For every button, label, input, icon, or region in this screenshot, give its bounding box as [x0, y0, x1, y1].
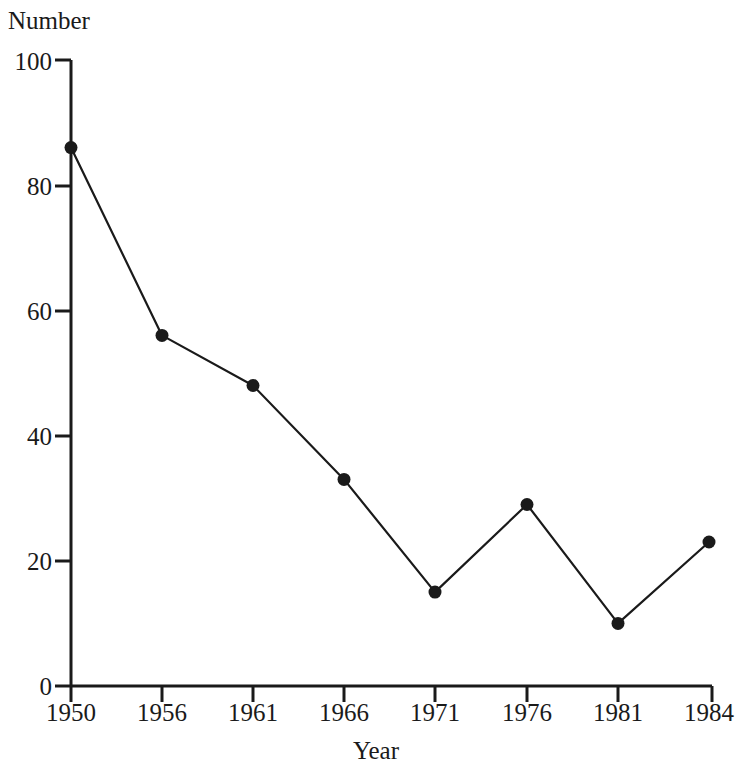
data-point-1966 [338, 473, 351, 486]
data-point-1971 [429, 586, 442, 599]
x-axis-ticks [71, 686, 712, 702]
data-point-1956 [156, 329, 169, 342]
line-chart-figure: Number Year 0 20 40 60 80 100 1950 1956 … [0, 0, 752, 773]
plot-area [0, 0, 752, 773]
data-point-1950 [65, 141, 78, 154]
data-point-1961 [247, 379, 260, 392]
data-point-1976 [521, 498, 534, 511]
data-point-1981 [612, 617, 625, 630]
data-point-1984 [703, 536, 716, 549]
axes-group [55, 60, 712, 702]
data-line-series [71, 148, 709, 624]
data-point-markers [65, 141, 716, 630]
y-axis-ticks [55, 60, 71, 686]
